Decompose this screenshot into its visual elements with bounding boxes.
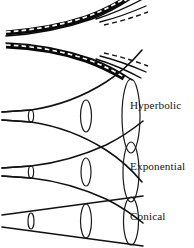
exponential-throat-top <box>2 166 31 168</box>
horn-flare-figure: Hyperbolic Exponential Conical <box>0 0 194 248</box>
label-exponential: Exponential <box>130 161 185 172</box>
label-conical: Conical <box>130 211 166 222</box>
upper-flare-band <box>6 0 148 36</box>
horn-exponential <box>2 121 143 223</box>
lower-band-dashes <box>6 45 124 77</box>
hyperbolic-section-throat <box>28 110 33 122</box>
horn-conical <box>2 196 143 246</box>
lower-flare-band <box>6 43 148 80</box>
hyperbolic-throat-top <box>2 110 31 112</box>
exponential-section-throat <box>28 166 33 178</box>
conical-section-throat <box>28 213 34 229</box>
hyperbolic-section-mid <box>81 100 92 132</box>
exponential-section-mid <box>81 158 91 186</box>
exponential-throat-bottom <box>2 176 31 178</box>
label-hyperbolic: Hyperbolic <box>130 100 181 111</box>
conical-upper-wall <box>2 196 143 215</box>
hyperbolic-upper-wall <box>2 50 142 112</box>
conical-section-mid <box>81 204 92 238</box>
conical-lower-wall <box>2 227 143 246</box>
hyperbolic-lower-wall <box>2 120 142 182</box>
horn-hyperbolic <box>2 50 142 182</box>
upper-band-fill <box>6 0 124 33</box>
hyperbolic-throat-bottom <box>2 120 31 122</box>
